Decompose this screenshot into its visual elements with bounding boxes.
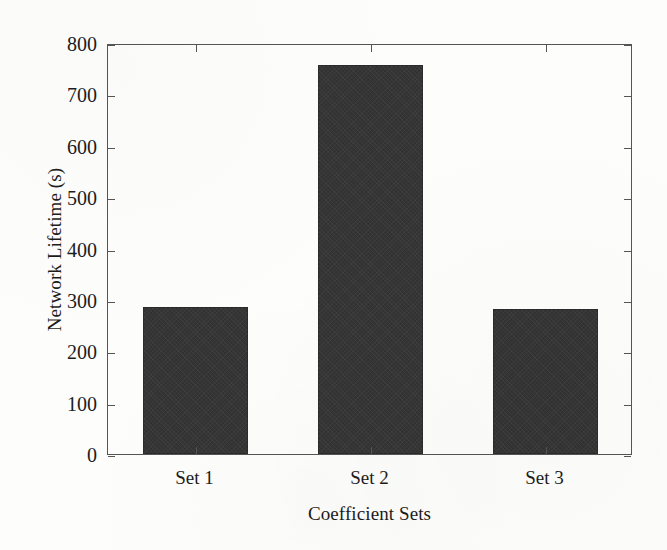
bar [143,307,248,454]
y-axis-tick [624,45,631,46]
plot-frame [107,44,632,455]
y-axis-tick [624,456,631,457]
y-axis-tick [108,148,115,149]
x-tick-label: Set 1 [125,467,265,489]
y-axis-tick [108,302,115,303]
x-axis-tick [196,447,197,454]
y-tick-label: 800 [35,34,97,54]
y-tick-label: 100 [35,394,97,414]
plot-area [108,45,631,454]
x-tick-label: Set 2 [300,467,440,489]
x-tick-label: Set 3 [475,467,615,489]
bar-chart-figure: Network Lifetime (s) 0100200300400500600… [0,0,667,550]
y-axis-tick [108,456,115,457]
y-axis-tick [624,148,631,149]
y-tick-label: 400 [35,240,97,260]
x-axis-tick [546,45,547,52]
y-tick-label: 300 [35,291,97,311]
y-axis-tick [108,405,115,406]
y-axis-tick [108,199,115,200]
y-tick-label: 500 [35,188,97,208]
y-axis-tick [108,251,115,252]
y-tick-label: 600 [35,137,97,157]
y-axis-tick [108,96,115,97]
x-axis-tick [546,447,547,454]
y-axis-tick [624,353,631,354]
x-axis-tick [371,447,372,454]
y-tick-label: 200 [35,342,97,362]
y-axis-tick [624,405,631,406]
y-tick-label: 700 [35,85,97,105]
y-axis-tick [624,199,631,200]
y-axis-tick [624,96,631,97]
y-tick-label: 0 [35,445,97,465]
x-axis-tick [196,45,197,52]
y-axis-tick [624,251,631,252]
x-axis-title: Coefficient Sets [107,503,632,525]
y-axis-tick [624,302,631,303]
y-axis-tick [108,353,115,354]
y-axis-tick [108,45,115,46]
x-axis-tick [371,45,372,52]
bar [493,309,598,454]
bar [318,65,423,454]
